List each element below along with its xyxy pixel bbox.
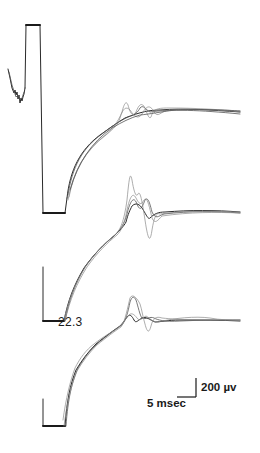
panel-top bbox=[8, 25, 240, 213]
figure: 22.3 200 µv 5 msec bbox=[0, 0, 260, 453]
scale-bar bbox=[177, 378, 196, 397]
scale-bar-time-label: 5 msec bbox=[147, 397, 186, 409]
panel-middle bbox=[43, 176, 240, 321]
scale-bar-voltage-label: 200 µv bbox=[201, 381, 236, 393]
latency-annotation: 22.3 bbox=[58, 315, 83, 329]
